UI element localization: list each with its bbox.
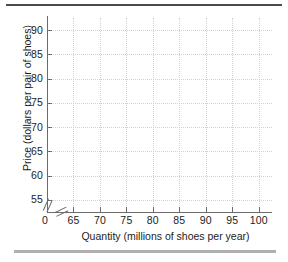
gridline-vertical [153,18,154,212]
gridline-vertical [259,18,260,212]
y-axis-tick [47,54,52,55]
x-axis-tick [73,207,74,212]
gridline-horizontal [47,30,272,31]
x-axis-tick-label: 100 [239,214,279,226]
gridline-vertical [126,18,127,212]
y-axis-tick [47,30,52,31]
gridline-horizontal [47,127,272,128]
y-axis-tick [47,151,52,152]
gridline-vertical [73,18,74,212]
gridline-vertical [206,18,207,212]
bottom-divider-rule [14,250,276,253]
gridline-vertical [232,18,233,212]
x-axis-tick [153,207,154,212]
x-axis-tick [179,207,180,212]
x-axis-tick [100,207,101,212]
gridline-horizontal [47,176,272,177]
x-axis-tick [126,207,127,212]
x-axis-tick [206,207,207,212]
gridline-horizontal [47,54,272,55]
gridline-vertical [100,18,101,212]
x-axis-tick [232,207,233,212]
gridline-vertical [179,18,180,212]
x-axis-title: Quantity (millions of shoes per year) [48,230,283,242]
y-axis-tick [47,176,52,177]
y-axis-tick-label: 55 [3,193,43,205]
gridline-horizontal [47,103,272,104]
gridline-horizontal [47,200,272,201]
y-axis-tick [47,127,52,128]
plot-area [47,18,272,212]
y-axis-tick [47,103,52,104]
chart-figure: 5560657075808590 065707580859095100 Pric… [0,0,288,262]
top-divider-rule [6,4,282,6]
y-axis-title: Price (dollars per pair of shoes) [21,3,33,193]
gridline-horizontal [47,79,272,80]
x-axis-tick [259,207,260,212]
y-axis-tick [47,79,52,80]
gridline-horizontal [47,151,272,152]
